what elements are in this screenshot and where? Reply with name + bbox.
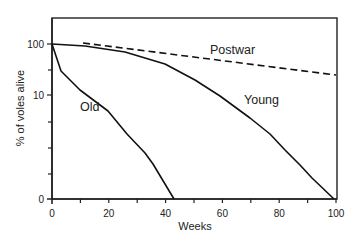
x-tick-label-40: 40 <box>160 208 172 219</box>
y-axis-label: % of voles alive <box>14 70 26 146</box>
x-tick-label-0: 0 <box>49 208 55 219</box>
series-young-line <box>52 44 334 199</box>
y-tick-label-100: 100 <box>27 39 44 50</box>
series-label-postwar: Postwar <box>210 43 255 57</box>
y-tick-label-10: 10 <box>33 90 45 101</box>
x-tick-label-80: 80 <box>274 208 286 219</box>
x-tick-label-100: 100 <box>328 208 345 219</box>
x-tick-label-60: 60 <box>217 208 229 219</box>
series-old-line <box>52 44 174 199</box>
survival-chart: 100 10 0 0 20 40 60 80 100 Weeks % of vo… <box>0 0 355 242</box>
series-label-old: Old <box>80 100 100 114</box>
y-tick-label-0: 0 <box>38 194 44 205</box>
x-axis-label: Weeks <box>178 220 212 232</box>
series-label-young: Young <box>244 93 279 107</box>
x-tick-label-20: 20 <box>103 208 115 219</box>
